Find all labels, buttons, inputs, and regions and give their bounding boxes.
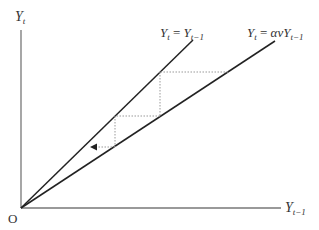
y-axis-label: Yt	[15, 10, 25, 26]
line-45-degree	[21, 40, 193, 208]
x-axis-label: Yt−1	[285, 201, 306, 217]
line-45-label: Yt = Yt−1	[160, 26, 204, 42]
origin-label: O	[8, 212, 17, 225]
line-alpha-v-label: Yt = αvYt−1	[247, 26, 304, 42]
arrowhead-icon	[90, 144, 97, 151]
line-alpha-v	[21, 41, 275, 208]
staircase-path	[96, 72, 228, 147]
